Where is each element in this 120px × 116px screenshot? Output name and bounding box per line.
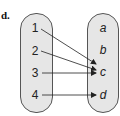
arrow-2-to-c: [41, 51, 96, 70]
arrow-1-to-c: [41, 29, 96, 64]
mapping-arrows: [0, 0, 120, 116]
